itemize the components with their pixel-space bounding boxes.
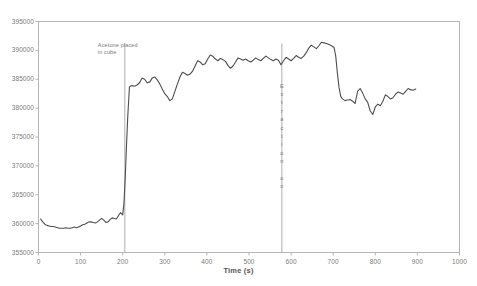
y-tick-label: 360000 bbox=[0, 220, 34, 227]
x-tick-label: 800 bbox=[355, 258, 395, 265]
x-tick-label: 100 bbox=[61, 258, 101, 265]
annotation-char: n bbox=[277, 157, 287, 165]
y-tick-label: 355000 bbox=[0, 249, 34, 256]
x-tick-label: 500 bbox=[229, 258, 269, 265]
y-tick-label: 385000 bbox=[0, 75, 34, 82]
x-tick-label: 1000 bbox=[440, 258, 477, 265]
x-tick-label: 300 bbox=[145, 258, 185, 265]
x-tick-label: 600 bbox=[271, 258, 311, 265]
annotation-char: o bbox=[277, 149, 287, 157]
y-tick-label: 375000 bbox=[0, 133, 34, 140]
annotation-acetone-placed: Acetone placed in cube bbox=[98, 42, 138, 57]
annotation-char: E bbox=[277, 82, 287, 90]
annotation-rules bbox=[125, 44, 282, 253]
annotation-char: x bbox=[277, 90, 287, 98]
x-tick-label: 700 bbox=[313, 258, 353, 265]
x-axis-title: Time (s) bbox=[0, 266, 477, 275]
chart-plot-svg bbox=[0, 0, 477, 286]
data-series-line bbox=[41, 42, 416, 228]
annotation-char: c bbox=[277, 124, 287, 132]
annotation-char: a bbox=[277, 115, 287, 123]
annotation-char: t bbox=[277, 132, 287, 140]
annotation-char bbox=[277, 166, 287, 174]
annotation-char: t bbox=[277, 98, 287, 106]
annotation-char: n bbox=[277, 182, 287, 190]
chart-container: 3550003600003650003700003750003800003850… bbox=[0, 0, 477, 286]
annotation-extraction-on: Extraction on bbox=[277, 82, 287, 191]
y-tick-label: 365000 bbox=[0, 191, 34, 198]
y-tick-label: 390000 bbox=[0, 46, 34, 53]
annotation-char: r bbox=[277, 107, 287, 115]
x-tick-label: 200 bbox=[103, 258, 143, 265]
x-tick-label: 400 bbox=[187, 258, 227, 265]
y-tick-label: 380000 bbox=[0, 104, 34, 111]
x-tick-label: 900 bbox=[397, 258, 437, 265]
annotation-char: o bbox=[277, 174, 287, 182]
y-tick-label: 370000 bbox=[0, 162, 34, 169]
y-tick-label: 395000 bbox=[0, 18, 34, 25]
x-tick-label: 0 bbox=[19, 258, 59, 265]
annotation-char: i bbox=[277, 140, 287, 148]
